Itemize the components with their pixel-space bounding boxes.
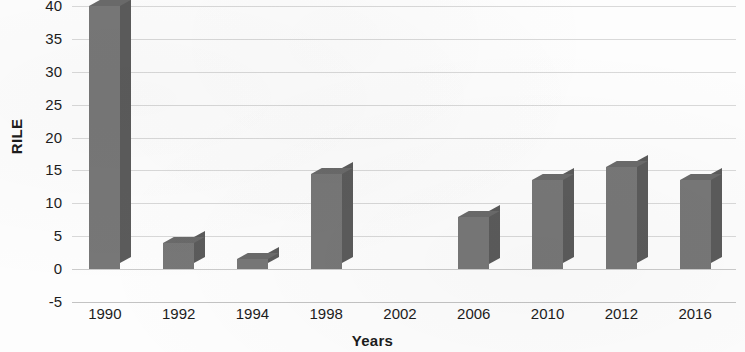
bar-chart: RILE 4035302520151050-5 1990199219941998… xyxy=(0,0,745,352)
gridline xyxy=(72,6,736,7)
y-axis-tick-label: 0 xyxy=(20,261,62,276)
x-axis-tick-label: 1990 xyxy=(70,306,140,321)
gridline xyxy=(72,302,736,303)
y-axis-tick-label: 30 xyxy=(20,64,62,79)
plot-area xyxy=(72,6,736,302)
x-axis-tick-label: 2002 xyxy=(365,306,435,321)
x-axis-title: Years xyxy=(0,332,745,349)
x-axis-tick-label: 2016 xyxy=(660,306,730,321)
y-axis-tick-label: 20 xyxy=(20,130,62,145)
y-axis-tick-label: -5 xyxy=(20,294,62,309)
x-axis-tick-label: 1992 xyxy=(144,306,214,321)
gridline xyxy=(72,72,736,73)
y-axis-tick-label: 25 xyxy=(20,97,62,112)
bar-side-face xyxy=(563,168,574,263)
gridline xyxy=(72,138,736,139)
bar-front-face xyxy=(311,174,342,269)
bar-front-face xyxy=(163,243,194,269)
bar xyxy=(680,180,711,269)
bar xyxy=(311,174,342,269)
bar xyxy=(89,6,120,269)
gridline xyxy=(72,39,736,40)
y-axis-tick-label: 35 xyxy=(20,31,62,46)
bar-front-face xyxy=(89,6,120,269)
bar-front-face xyxy=(606,167,637,269)
gridline xyxy=(72,105,736,106)
gridline xyxy=(72,269,736,270)
x-axis-tick-label: 2012 xyxy=(586,306,656,321)
bar-front-face xyxy=(458,217,489,270)
y-axis-tick-label: 10 xyxy=(20,195,62,210)
bar xyxy=(606,167,637,269)
y-axis-tick-label: 15 xyxy=(20,162,62,177)
x-axis-tick-label: 2006 xyxy=(439,306,509,321)
bar xyxy=(163,243,194,269)
x-axis-tick-label: 1998 xyxy=(291,306,361,321)
bar-side-face xyxy=(711,168,722,263)
y-axis-tick-label: 5 xyxy=(20,228,62,243)
bar xyxy=(532,180,563,269)
bar-front-face xyxy=(532,180,563,269)
y-axis-tick-label: 40 xyxy=(20,0,62,13)
bar xyxy=(458,217,489,270)
bar-side-face xyxy=(637,155,648,263)
bar-front-face xyxy=(237,259,268,269)
x-axis-tick-label: 1994 xyxy=(217,306,287,321)
x-axis-tick-label: 2010 xyxy=(513,306,583,321)
bar xyxy=(237,259,268,269)
bar-side-face xyxy=(342,162,353,263)
bar-front-face xyxy=(680,180,711,269)
bar-side-face xyxy=(194,231,205,263)
bar-side-face xyxy=(120,0,131,263)
